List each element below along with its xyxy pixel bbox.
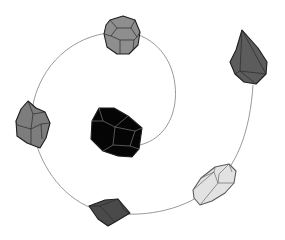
crystal-center [91, 108, 142, 157]
crystal-lower-right [193, 164, 236, 205]
crystal-upper-right [230, 30, 267, 84]
crystal-top [104, 16, 140, 54]
crystal-spiral-diagram [0, 0, 285, 240]
diagram-canvas [0, 0, 285, 240]
crystal-left [16, 101, 50, 148]
crystal-bottom [89, 199, 130, 226]
